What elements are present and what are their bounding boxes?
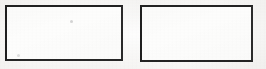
left-rectangle-shading [7, 7, 121, 59]
left-rectangle [5, 5, 123, 61]
right-rectangle [140, 5, 253, 62]
right-rectangle-shading [142, 7, 251, 60]
scan-canvas [0, 0, 266, 69]
